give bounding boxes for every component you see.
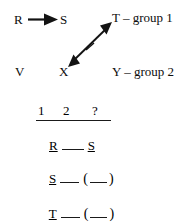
arrow-x-to-t: [68, 22, 112, 67]
table-row-r: RS: [36, 122, 95, 140]
header-col-unknown: ?: [92, 104, 98, 118]
table-row-s: S(): [36, 155, 114, 173]
relationship-diagram-figure: R S T – group 1 V X Y – group 2 1 2 ? RS…: [0, 0, 195, 223]
answer-table-header: 1 2 ?: [36, 104, 112, 120]
node-x: X: [59, 65, 68, 78]
cell-t-blank[interactable]: [61, 206, 80, 218]
cell-t-paren-blank[interactable]: [90, 206, 107, 218]
arrow-r-to-s: [28, 14, 58, 26]
cell-r-blank[interactable]: [62, 138, 84, 150]
cell-s2-letter: S: [49, 171, 56, 186]
cell-s2-blank[interactable]: [60, 171, 79, 183]
cell-s-letter: S: [88, 138, 95, 153]
answer-table-rule: [36, 120, 111, 121]
cell-s2-paren-blank[interactable]: [90, 171, 107, 183]
cell-s2-paren-close: ): [109, 171, 114, 186]
cell-t-letter: T: [49, 206, 57, 221]
cell-s2-paren-open: (: [83, 171, 88, 186]
cell-r-letter: R: [49, 138, 58, 153]
node-y-group-label: Y – group 2: [112, 65, 174, 79]
cell-t-paren-close: ): [109, 206, 114, 221]
cell-t-paren-open: (: [84, 206, 89, 221]
node-v: V: [15, 65, 24, 78]
node-r: R: [14, 13, 23, 26]
node-s: S: [60, 13, 67, 26]
table-row-t: T(): [36, 190, 114, 208]
header-col-2: 2: [63, 104, 70, 118]
header-col-1: 1: [38, 104, 45, 118]
node-t-group-label: T – group 1: [112, 11, 173, 25]
